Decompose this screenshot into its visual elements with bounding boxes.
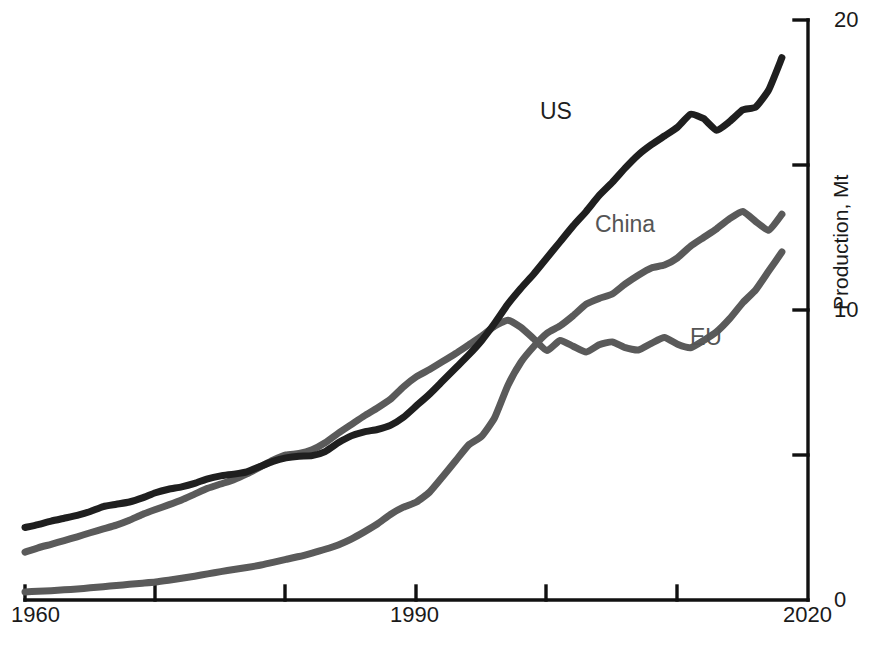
line-chart-plot — [0, 0, 891, 656]
y-tick-label-20: 20 — [834, 9, 858, 31]
y-axis-ticks — [794, 20, 808, 455]
series-label-us: US — [540, 100, 572, 123]
series-line-us — [25, 58, 782, 528]
figure-caption — [8, 648, 888, 656]
x-tick-label-1960: 1960 — [11, 604, 60, 626]
x-tick-label-1990: 1990 — [390, 604, 439, 626]
chart-series-group — [25, 58, 782, 592]
chart-figure: 1960 1990 2020 0 10 20 Production, Mt US… — [0, 0, 891, 656]
series-label-eu: EU — [690, 326, 722, 349]
y-axis-title: Production, Mt — [829, 175, 853, 310]
series-label-china: China — [595, 213, 655, 236]
series-line-china — [25, 211, 782, 591]
y-tick-label-0: 0 — [834, 589, 846, 611]
x-tick-label-2020: 2020 — [783, 604, 832, 626]
